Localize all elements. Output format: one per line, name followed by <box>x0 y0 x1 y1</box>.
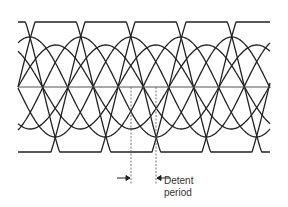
detent-label-line1: Detent <box>164 175 193 187</box>
detent-label-line2: period <box>164 187 192 199</box>
detent-waveform-diagram <box>0 0 288 207</box>
arrow-right-icon <box>117 176 130 181</box>
